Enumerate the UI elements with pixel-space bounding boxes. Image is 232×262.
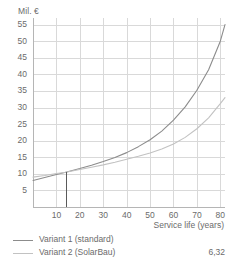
chart-legend: Variant 1 (standard) Variant 2 (SolarBau… xyxy=(0,234,232,262)
legend-item: Variant 2 (SolarBau) 6,32 xyxy=(0,247,232,260)
x-tick-label: 10 xyxy=(48,210,64,220)
y-tick-label: 35 xyxy=(11,85,27,95)
y-tick-label: 10 xyxy=(11,168,27,178)
legend-label-variant-1: Variant 1 (standard) xyxy=(39,234,114,244)
x-tick-label: 50 xyxy=(142,210,158,220)
x-tick-label: 40 xyxy=(119,210,135,220)
chart-container: Mil. € 510152025303540455055 10203040506… xyxy=(0,0,232,262)
y-tick-label: 30 xyxy=(11,102,27,112)
legend-value-variant-2: 6,32 xyxy=(208,247,225,257)
x-tick-label: 20 xyxy=(72,210,88,220)
legend-item: Variant 1 (standard) xyxy=(0,234,232,247)
legend-swatch-variant-2 xyxy=(13,253,33,254)
y-tick-label: 20 xyxy=(11,135,27,145)
y-tick-label: 5 xyxy=(11,185,27,195)
y-tick-label: 15 xyxy=(11,152,27,162)
axis-lines xyxy=(33,18,225,208)
y-tick-label: 45 xyxy=(11,52,27,62)
legend-swatch-variant-1 xyxy=(13,240,33,241)
y-tick-label: 55 xyxy=(11,19,27,29)
x-axis-label: Service life (years) xyxy=(154,220,224,230)
y-tick-label: 40 xyxy=(11,69,27,79)
gridlines xyxy=(33,18,225,207)
series-line-2 xyxy=(33,98,225,178)
x-tick-label: 30 xyxy=(95,210,111,220)
x-tick-label: 70 xyxy=(189,210,205,220)
plot-area xyxy=(0,0,232,232)
y-tick-label: 25 xyxy=(11,119,27,129)
legend-label-variant-2: Variant 2 (SolarBau) xyxy=(39,247,115,257)
x-tick-label: 80 xyxy=(212,210,228,220)
x-tick-label: 60 xyxy=(165,210,181,220)
y-tick-label: 50 xyxy=(11,36,27,46)
